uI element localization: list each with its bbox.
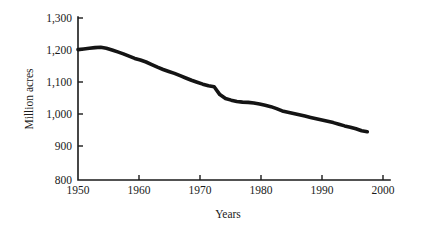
x-tick-label-1970: 1970 bbox=[189, 184, 212, 196]
y-tick-label-900: 900 bbox=[55, 140, 73, 152]
x-tick-label-1960: 1960 bbox=[128, 184, 151, 196]
y-axis-title: Million acres bbox=[23, 68, 35, 130]
x-tick-label-1950: 1950 bbox=[67, 184, 90, 196]
y-tick-label-1200: 1,200 bbox=[46, 44, 72, 57]
y-tick-label-1300: 1,300 bbox=[46, 12, 72, 25]
y-tick-label-1000: 1,000 bbox=[46, 108, 72, 121]
x-tick-label-2000: 2000 bbox=[372, 184, 395, 196]
line-chart-canvas: 1,300 1,200 1,100 1,000 900 800 1950 196… bbox=[0, 0, 423, 233]
x-tick-label-1980: 1980 bbox=[250, 184, 273, 196]
y-tick-label-1100: 1,100 bbox=[46, 76, 72, 89]
x-tick-label-1990: 1990 bbox=[311, 184, 334, 196]
chart-axes bbox=[78, 17, 390, 180]
x-axis-title: Years bbox=[215, 208, 241, 220]
data-line-cropland bbox=[78, 47, 367, 131]
chart-figure: 1,300 1,200 1,100 1,000 900 800 1950 196… bbox=[0, 0, 423, 233]
